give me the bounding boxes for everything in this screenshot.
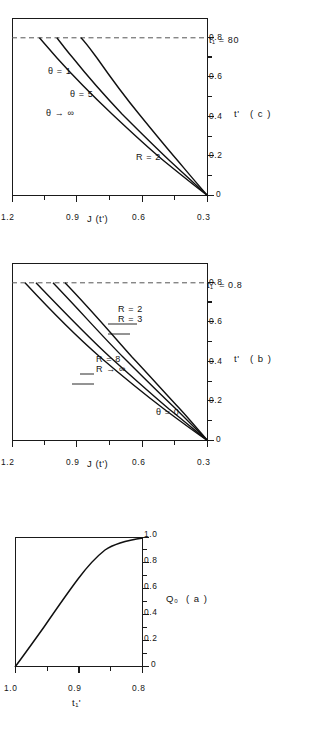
panel-c-refline-label: t₁ = 80	[209, 35, 239, 45]
panel-a-xtick-label-wrap: 0	[142, 659, 168, 671]
panel-c-ytick	[76, 196, 77, 202]
panel-a-ytick-label: 0.8	[132, 683, 145, 693]
figure-root: 0.3 0.6 0.9 1.2 J (t')	[0, 0, 309, 733]
panel-b-refline-label: t₁' = 0.8	[207, 280, 242, 290]
panel-a-xaxis-title-wrap: Q₀	[162, 593, 188, 607]
panel-c-ytick	[44, 196, 45, 200]
panel-c-ytick-label: 0.3	[197, 212, 210, 222]
panel-a-series-t1prime	[15, 538, 143, 667]
panel-a-xaxis-title: Q₀	[166, 593, 178, 604]
panel-b-xtick-label: 0.6	[209, 316, 222, 326]
panel-a-yaxis-title-wrap: t₁'	[62, 697, 96, 711]
panel-c-xtick-label-wrap: 0.6	[207, 71, 233, 83]
panel-b-xaxis-title-wrap: t'	[228, 353, 250, 367]
panel-c-xtick-label: 0	[216, 189, 221, 199]
panel-c-xtick-label: 0.6	[209, 71, 222, 81]
panel-b-ytick	[12, 441, 13, 447]
panel-a-xtick-label-wrap: 0.8	[142, 555, 168, 567]
panel-a-ytick-label-wrap: 0.9	[64, 683, 92, 695]
panel-c-refline-label-wrap: t₁ = 80	[209, 35, 261, 49]
panel-b-ytick-label-wrap: 0.9	[62, 457, 90, 469]
panel-c-ytick	[109, 196, 110, 200]
panel-c-yaxis-title-wrap: J (t')	[87, 213, 135, 227]
panel-c-ytick-label: 1.2	[1, 212, 14, 222]
panel-a-curves	[15, 537, 143, 667]
panel-b-ytick-label: 1.2	[1, 457, 14, 467]
panel-a-ytick-label-wrap: 1.0	[0, 683, 28, 695]
panel-a-xtick-label: 0.2	[144, 633, 157, 643]
panel-c: 0.3 0.6 0.9 1.2 J (t')	[0, 0, 309, 240]
panel-a-label-wrap: ( a )	[186, 593, 216, 607]
panel-b-series-r-8	[36, 283, 208, 441]
panel-c-xaxis-title-wrap: t'	[228, 108, 250, 122]
panel-a-xtick	[143, 627, 147, 628]
panel-a-xtick-label-wrap: 0.6	[142, 581, 168, 593]
panel-a-xtick-label: 1.0	[144, 529, 157, 539]
panel-b-container: 0.3 0.6 0.9 1.2 J (t')	[0, 245, 309, 485]
panel-b-xtick-label: 0.2	[209, 395, 222, 405]
panel-c-xtick-label: 0.2	[209, 150, 222, 160]
panel-a-ytick-label: 1.0	[4, 683, 17, 693]
panel-c-label-wrap: ( c )	[250, 108, 280, 122]
panel-a-ytick-label-wrap: 0.8	[128, 683, 156, 695]
panel-c-xtick	[208, 175, 212, 176]
panel-b-ytick	[76, 441, 77, 447]
panel-c-xtick	[208, 136, 212, 137]
panel-c-xtick-label-wrap: 0	[207, 189, 233, 201]
panel-b-ytick	[109, 441, 110, 445]
panel-b-ytick	[44, 441, 45, 445]
panel-a-ytick	[110, 667, 111, 671]
panel-a-xtick	[143, 549, 147, 550]
panel-b-series-r-3	[53, 283, 208, 441]
panel-b-ytick	[142, 441, 143, 447]
panel-b-yaxis-title: J (t')	[87, 458, 108, 469]
panel-b-yaxis-title-wrap: J (t')	[87, 458, 135, 472]
panel-b-xtick	[208, 341, 212, 342]
panel-b-xtick	[208, 381, 212, 382]
panel-a-xtick	[143, 653, 147, 654]
panel-b-refline-label-wrap: t₁' = 0.8	[207, 280, 263, 294]
panel-b-ytick-label-wrap: 1.2	[0, 457, 25, 469]
panel-c-xtick	[208, 96, 212, 97]
panel-a-ytick	[47, 667, 48, 671]
panel-c-label: ( c )	[250, 108, 271, 119]
panel-b-ytick-label: 0.9	[66, 457, 79, 467]
panel-c-xtick-label: 0.4	[209, 111, 222, 121]
panel-a-xtick-label: 0	[151, 659, 156, 669]
panel-b-series-r-inf	[25, 283, 208, 441]
panel-a-xtick-label: 0.8	[144, 555, 157, 565]
panel-c-ytick-label-wrap: 0.9	[62, 212, 90, 224]
panel-b-ytick-label: 0.3	[197, 457, 210, 467]
panel-c-yaxis-title: J (t')	[87, 213, 108, 224]
panel-c-ytick	[174, 196, 175, 200]
panel-c-ytick	[12, 196, 13, 202]
panel-c-container: 0.3 0.6 0.9 1.2 J (t')	[0, 0, 309, 240]
panel-b-xtick	[208, 420, 212, 421]
panel-c-series-theta-1	[81, 38, 208, 196]
panel-a-xtick-label-wrap: 0.4	[142, 607, 168, 619]
panel-b-curves	[12, 263, 208, 441]
panel-a-container: 0.8 0.9 1.0 t₁' 0	[0, 489, 309, 733]
panel-a-ytick	[78, 667, 79, 673]
panel-a-xtick-label-wrap: 1.0	[142, 529, 168, 541]
panel-c-xtick-label-wrap: 0.2	[207, 150, 233, 162]
panel-b-xtick-label-wrap: 0	[207, 434, 233, 446]
panel-a: 0.8 0.9 1.0 t₁' 0	[0, 489, 309, 733]
panel-b-ytick-label-wrap: 0.3	[193, 457, 221, 469]
panel-a-xtick	[143, 601, 147, 602]
panel-a-label: ( a )	[186, 593, 208, 604]
panel-b-ytick	[174, 441, 175, 445]
panel-c-ytick-label-wrap: 0.3	[193, 212, 221, 224]
panel-c-curves	[12, 18, 208, 196]
panel-b-xtick-label-wrap: 0.2	[207, 395, 233, 407]
panel-a-xtick-label: 0.6	[144, 581, 157, 591]
panel-b-xtick	[208, 301, 212, 302]
panel-b-xaxis-title: t'	[234, 353, 239, 364]
panel-c-xtick	[208, 56, 212, 57]
panel-b-label: ( b )	[250, 353, 272, 364]
panel-c-xaxis-title: t'	[234, 108, 239, 119]
panel-c-ytick-label: 0.9	[66, 212, 79, 222]
panel-c-ytick-label-wrap: 1.2	[0, 212, 25, 224]
panel-a-xtick	[143, 575, 147, 576]
panel-b-label-wrap: ( b )	[250, 353, 280, 367]
